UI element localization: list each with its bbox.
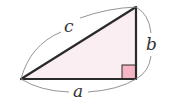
label-c: c [64,16,74,36]
right-angle-marker [122,65,136,79]
label-a: a [73,81,83,101]
brace-a-arc-right [88,79,136,92]
label-b: b [146,34,157,54]
brace-a-arc-left [21,79,69,92]
right-triangle-diagram: c b a [0,0,177,111]
brace-b-arc-lower [136,56,151,79]
brace-b-arc-upper [136,7,151,33]
